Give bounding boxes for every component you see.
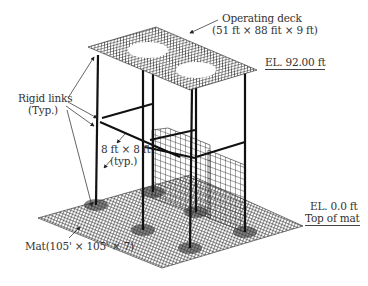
mat-label: Mat(105' × 105' × 7) [25, 240, 134, 252]
beam-typ-label: (typ.) [110, 155, 137, 167]
elevation-bottom-label: EL. 0.0 ft [310, 200, 357, 212]
operating-deck-label: Operating deck [222, 12, 302, 24]
rigid-links-typ-label: (Typ.) [28, 104, 58, 116]
deck-dimensions-label: (51 ft × 88 fit × 9 ft) [212, 24, 318, 36]
rigid-links-label: Rigid links [18, 92, 72, 104]
elevation-top-label: EL. 92.00 ft [265, 56, 325, 70]
operating-deck [88, 27, 257, 90]
beam-size-label: 8 ft × 8 ft [101, 143, 151, 155]
top-of-mat-label: Top of mat [305, 212, 360, 226]
